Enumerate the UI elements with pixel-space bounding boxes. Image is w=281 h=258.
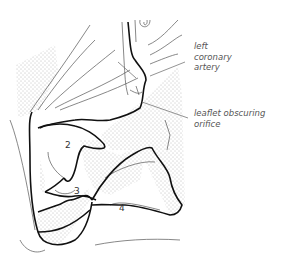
callout-line: leaflet obscuring [194,108,265,119]
callout-line: orifice [194,119,265,130]
stippled-regions [16,45,185,245]
callout-line: coronary [194,52,232,63]
callout-leaflet-obscuring-orifice: leaflet obscuring orifice [194,108,265,129]
callout-line: left [194,41,232,52]
callout-left-coronary-artery: left coronary artery [194,41,232,73]
region-number-3: 3 [74,186,80,196]
anatomical-diagram: 2 3 4 [0,0,281,258]
callout-line: artery [194,62,232,73]
region-number-2: 2 [65,140,71,150]
region-number-4: 4 [119,203,125,213]
leader-left-coronary-artery [150,62,185,76]
